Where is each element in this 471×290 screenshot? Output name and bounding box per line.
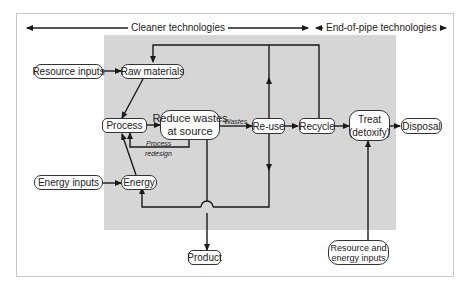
node-label-line1: Resource and: [330, 243, 386, 253]
node-label-line2: at source: [152, 125, 227, 138]
connector-lines: [0, 0, 471, 290]
node-label: Product: [187, 252, 221, 263]
node-label-line2: (detoxify): [349, 126, 390, 139]
node-label-line1: Reduce wastes: [152, 112, 227, 125]
node-product: Product: [188, 250, 221, 265]
node-recycle: Recycle: [299, 118, 335, 134]
node-resource-inputs: Resource inputs: [34, 64, 103, 79]
node-resource-and-energy-inputs: Resource and energy inputs: [328, 240, 389, 265]
node-label: Recycle: [299, 121, 335, 132]
node-disposal: Disposal: [401, 118, 442, 134]
node-label: Disposal: [402, 121, 440, 132]
node-label: Energy inputs: [38, 177, 99, 188]
node-energy: Energy: [121, 175, 157, 190]
node-treat-detoxify: Treat (detoxify): [349, 110, 390, 141]
node-reduce-wastes-at-source: Reduce wastes at source: [160, 110, 220, 140]
edge-label-process-redesign-line1: Process: [146, 140, 171, 148]
node-label: Raw materials: [121, 66, 184, 77]
edge-label-process-redesign-line2: redesign: [145, 150, 172, 158]
node-label: Re-use: [252, 121, 284, 132]
node-raw-materials: Raw materials: [121, 64, 184, 79]
node-label-line1: Treat: [349, 113, 390, 126]
node-re-use: Re-use: [252, 118, 285, 134]
end-of-pipe-technologies-label: End-of-pipe technologies: [323, 22, 440, 34]
node-energy-inputs: Energy inputs: [34, 175, 103, 190]
node-label: Energy: [123, 177, 155, 188]
edge-label-wastes: Wastes: [224, 118, 247, 126]
node-label: Resource inputs: [32, 66, 104, 77]
node-process: Process: [102, 118, 147, 133]
cleaner-technologies-label: Cleaner technologies: [128, 22, 228, 34]
node-label-line2: energy inputs: [330, 253, 386, 263]
node-label: Process: [106, 120, 142, 131]
